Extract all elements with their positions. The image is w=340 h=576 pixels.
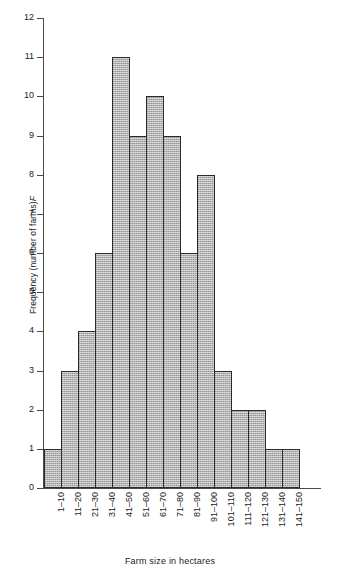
y-axis-tick-label: 4	[14, 326, 34, 335]
x-axis-tick-label: 141–150	[282, 492, 299, 554]
x-axis-tick-label: 31–40	[95, 492, 112, 554]
histogram-bar	[61, 371, 79, 489]
y-axis-tick	[37, 136, 44, 137]
histogram-bar	[282, 449, 300, 488]
histogram-bar	[78, 331, 96, 488]
y-axis-title-text: Frequency (number of farms)	[28, 201, 38, 314]
histogram-chart: Frequency (number of farms)F 01234567891…	[0, 0, 340, 576]
histogram-bar	[265, 449, 283, 488]
y-axis-tick-label: 2	[14, 405, 34, 414]
histogram-bar	[146, 96, 164, 488]
x-axis-tick-label: 71–80	[163, 492, 180, 554]
y-axis-tick	[37, 292, 44, 293]
y-axis-tick-label: 10	[14, 91, 34, 100]
y-axis-tick	[37, 488, 44, 489]
y-axis-tick-label: 12	[14, 13, 34, 22]
y-axis-tick	[37, 410, 44, 411]
histogram-bar	[95, 253, 113, 488]
y-axis-tick	[37, 449, 44, 450]
x-axis-tick-label: 41–50	[112, 492, 129, 554]
x-axis-tick-label: 81–90	[180, 492, 197, 554]
y-axis-tick-label: 6	[14, 248, 34, 257]
histogram-bar	[163, 136, 181, 489]
y-axis-tick-label: 8	[14, 170, 34, 179]
y-axis-tick-label: 11	[14, 52, 34, 61]
y-axis-tick	[37, 371, 44, 372]
x-axis-tick-label: 11–20	[61, 492, 78, 554]
y-axis-tick-label: 3	[14, 366, 34, 375]
x-axis-tick-label: 51–60	[129, 492, 146, 554]
x-axis-tick-label: 121–130	[248, 492, 265, 554]
x-axis-title: Farm size in hectares	[0, 556, 340, 566]
histogram-bar	[197, 175, 215, 488]
y-axis-tick	[37, 96, 44, 97]
y-axis-tick	[37, 331, 44, 332]
y-axis-title-symbol: F	[28, 196, 38, 201]
histogram-bar	[129, 136, 147, 489]
histogram-bar	[112, 57, 130, 488]
histogram-bar	[231, 410, 249, 488]
histogram-bar	[248, 410, 266, 488]
y-axis-tick-label: 7	[14, 209, 34, 218]
bars-group	[44, 18, 299, 488]
y-axis-tick	[37, 253, 44, 254]
x-axis-tick-label-text: 141–150	[295, 492, 304, 527]
x-axis-tick-label: 101–110	[214, 492, 231, 554]
x-axis-tick-label: 61–70	[146, 492, 163, 554]
x-axis-tick-label: 21–30	[78, 492, 95, 554]
y-axis-tick-label: 5	[14, 287, 34, 296]
x-axis-tick-label: 91–100	[197, 492, 214, 554]
y-axis-tick	[37, 214, 44, 215]
x-axis-tick-label: 111–120	[231, 492, 248, 554]
histogram-bar	[214, 371, 232, 489]
y-axis-tick-label: 1	[14, 444, 34, 453]
y-axis-tick	[37, 18, 44, 19]
histogram-bar	[44, 449, 62, 488]
histogram-bar	[180, 253, 198, 488]
y-axis-tick	[37, 175, 44, 176]
x-axis-tick-label: 1–10	[44, 492, 61, 554]
x-axis-line	[43, 488, 321, 489]
x-axis-tick-label: 131–140	[265, 492, 282, 554]
y-axis-tick	[37, 57, 44, 58]
y-axis-tick-label: 9	[14, 131, 34, 140]
y-axis-tick-label: 0	[14, 483, 34, 492]
